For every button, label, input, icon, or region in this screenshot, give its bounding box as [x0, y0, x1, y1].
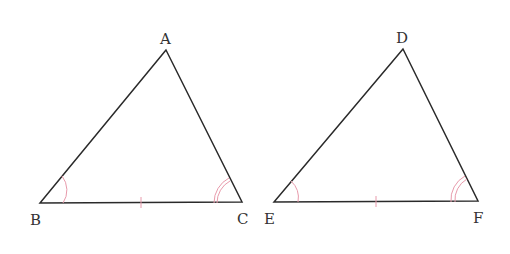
triangle-def-outline	[274, 49, 478, 202]
triangle-abc-outline	[40, 50, 242, 203]
vertex-label-f: F	[473, 209, 483, 227]
vertex-label-b: B	[30, 211, 41, 229]
vertex-label-e: E	[264, 210, 275, 228]
angle-e-single-arc	[291, 181, 298, 202]
vertex-label-a: A	[159, 30, 171, 48]
angle-c-double-arc-outer	[214, 178, 229, 203]
vertex-label-c: C	[237, 210, 248, 228]
vertex-label-d: D	[396, 29, 408, 47]
triangle-def: D E F	[264, 29, 483, 228]
triangle-abc: A B C	[30, 30, 248, 229]
congruent-triangles-diagram: A B C D E F	[0, 0, 510, 254]
angle-b-single-arc	[62, 176, 67, 203]
angle-c-double-arc-inner	[217, 181, 230, 203]
